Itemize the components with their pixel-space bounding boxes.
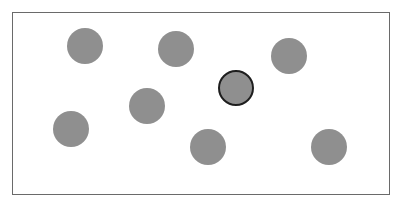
circle[interactable]: [311, 129, 347, 165]
circle[interactable]: [129, 88, 165, 124]
circle[interactable]: [190, 129, 226, 165]
circle[interactable]: [271, 38, 307, 74]
circle[interactable]: [53, 111, 89, 147]
circle[interactable]: [158, 31, 194, 67]
selected-circle[interactable]: [218, 70, 254, 106]
circle[interactable]: [67, 28, 103, 64]
